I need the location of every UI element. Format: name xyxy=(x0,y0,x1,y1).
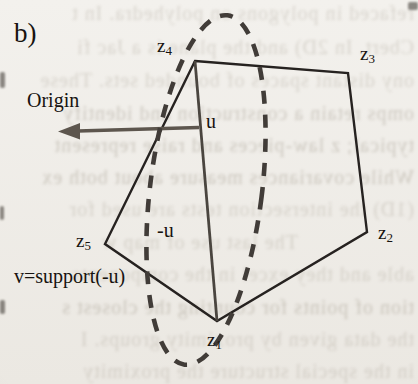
origin-arrow-head-icon xyxy=(58,123,80,140)
scanned-figure: refaced in polygons on polyhedra. In t C… xyxy=(0,0,418,384)
vertex-label-z1: z1 xyxy=(207,330,222,351)
scan-edge-smudge xyxy=(0,206,4,220)
vertex-label-z4: z4 xyxy=(157,36,172,57)
vertex-subscript: 3 xyxy=(368,51,375,66)
u-vector-label: u xyxy=(206,111,216,131)
polygon-z1-z5 xyxy=(105,61,367,321)
vertex-label-z3: z3 xyxy=(360,44,375,65)
scan-edge-smudge xyxy=(0,300,5,314)
vertex-subscript: 5 xyxy=(84,238,91,253)
vertex-label-z2: z2 xyxy=(378,223,393,244)
vertex-subscript: 2 xyxy=(386,230,393,245)
vertex-label-z5: z5 xyxy=(76,231,91,252)
panel-label: b) xyxy=(14,20,37,47)
scan-edge-smudge xyxy=(0,72,5,88)
origin-arrow-shaft xyxy=(78,128,199,132)
scan-edge-smudge xyxy=(408,2,418,10)
origin-label: Origin xyxy=(27,90,79,110)
geometry-svg xyxy=(0,0,418,384)
vertex-subscript: 1 xyxy=(215,337,222,352)
vertex-subscript: 4 xyxy=(165,43,172,58)
support-function-label: v=support(-u) xyxy=(14,266,125,286)
neg-u-vector-label: -u xyxy=(157,220,174,240)
chord-z4-z1 xyxy=(195,61,217,321)
